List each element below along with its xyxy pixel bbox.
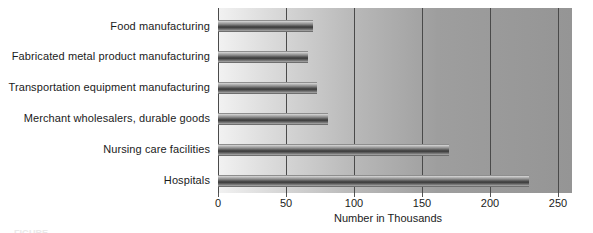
x-tick-label: 100: [345, 197, 363, 209]
category-label: Nursing care facilities: [0, 143, 210, 155]
gridline-200: [490, 8, 491, 193]
figure-container: Food manufacturing Fabricated metal prod…: [0, 0, 593, 233]
bar: [218, 51, 308, 63]
x-tick-label: 150: [413, 197, 431, 209]
plot-area: [218, 8, 572, 193]
bar: [218, 113, 328, 125]
category-label: Transportation equipment manufacturing: [0, 81, 210, 93]
x-tick-label: 50: [280, 197, 292, 209]
category-label: Fabricated metal product manufacturing: [0, 50, 210, 62]
category-label: Hospitals: [0, 174, 210, 186]
gridline-100: [354, 8, 355, 193]
bar: [218, 20, 313, 32]
gridline-50: [286, 8, 287, 193]
bar: [218, 82, 317, 94]
category-label: Food manufacturing: [0, 20, 210, 32]
x-axis-title: Number in Thousands: [218, 212, 558, 224]
x-axis: 0 50 100 150 200 250 Number in Thousands: [218, 193, 572, 233]
x-tick-label: 0: [215, 197, 221, 209]
category-labels: Food manufacturing Fabricated metal prod…: [0, 8, 214, 193]
gridline-250: [558, 8, 559, 193]
bar: [218, 144, 449, 156]
gridline-0: [218, 8, 219, 193]
bar: [218, 175, 529, 187]
category-label: Merchant wholesalers, durable goods: [0, 112, 210, 124]
x-tick-label: 200: [481, 197, 499, 209]
caption-sliver: FIGURE: [14, 229, 354, 233]
x-tick-label: 250: [549, 197, 567, 209]
gridline-150: [422, 8, 423, 193]
